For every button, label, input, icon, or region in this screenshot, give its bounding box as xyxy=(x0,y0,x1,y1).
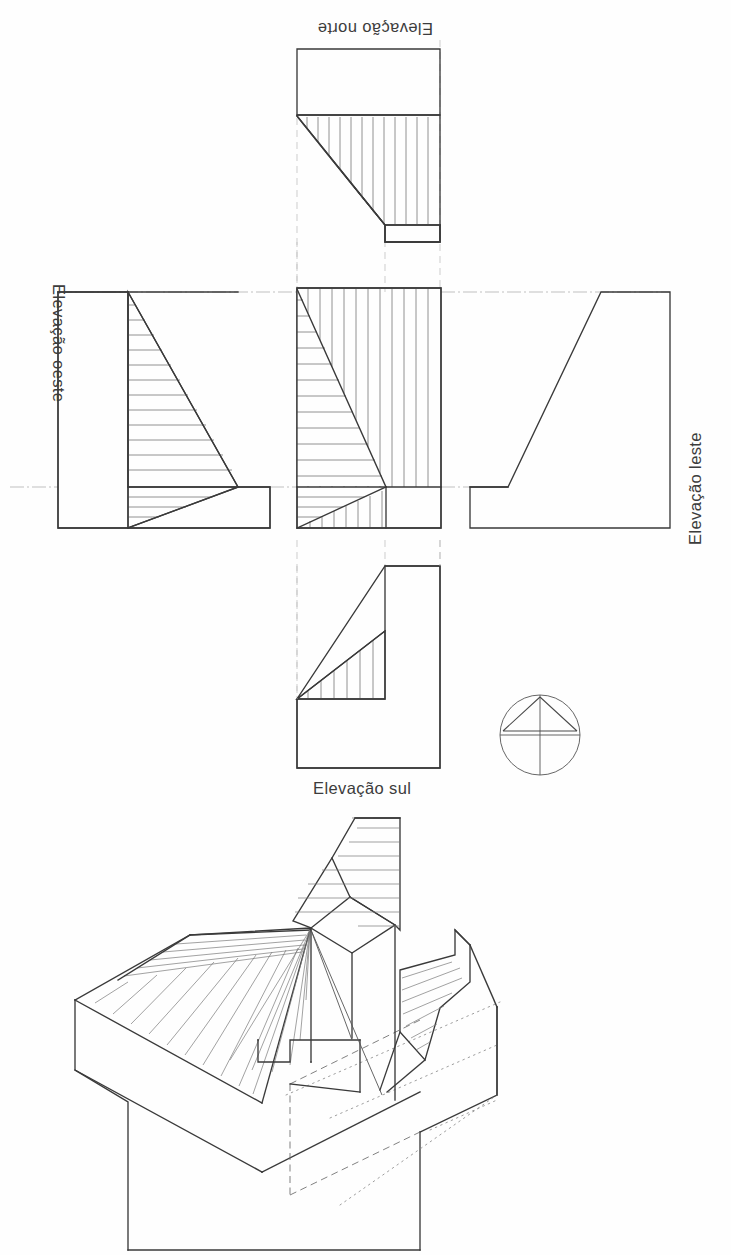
iso-tower xyxy=(311,897,395,1100)
drawing-sheet: Elevação norte Elevação oeste Elevação l… xyxy=(0,0,731,1255)
iso-roof-strip xyxy=(118,928,311,980)
label-south-elevation: Elevação sul xyxy=(313,779,411,798)
view-north-elevation xyxy=(296,49,440,292)
view-west-elevation xyxy=(58,292,270,528)
view-east-elevation xyxy=(470,292,670,528)
projection-method-symbol xyxy=(500,695,580,775)
hatch-west-lower xyxy=(128,497,212,517)
technical-drawing-canvas xyxy=(0,0,731,1255)
view-axonometric xyxy=(75,818,500,1250)
view-south-elevation xyxy=(297,540,440,768)
hatch-iso-roof-strip xyxy=(124,935,306,976)
label-north-elevation: Elevação norte xyxy=(317,19,433,38)
view-plan xyxy=(297,288,441,528)
iso-cut-plane-right xyxy=(400,930,497,1060)
iso-base-block xyxy=(75,1000,497,1250)
label-east-elevation: Elevação leste xyxy=(686,432,705,545)
iso-cut-plane-upper xyxy=(293,818,400,930)
hatch-south xyxy=(308,641,373,699)
iso-hidden-edges xyxy=(286,1002,500,1205)
hatch-west-upper xyxy=(128,305,232,470)
label-west-elevation: Elevação oeste xyxy=(49,284,68,402)
iso-apex-sweeps xyxy=(311,930,425,1095)
hatch-iso-cut-upper xyxy=(295,818,400,926)
